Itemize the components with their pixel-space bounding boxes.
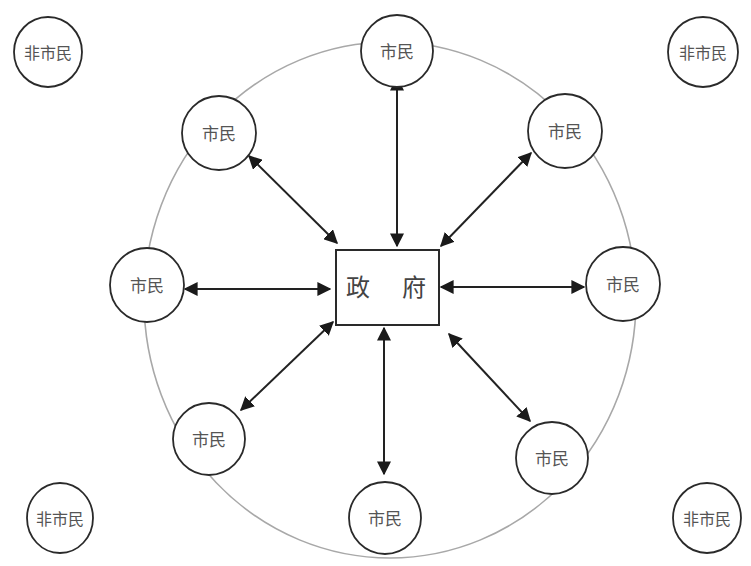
citizen-node-bottom: 市民 xyxy=(349,482,421,554)
government-citizen-diagram: 政 府 市民 市民 市民 市民 市民 市民 市民 市民 非市民 非市民 xyxy=(0,0,751,566)
non-citizen-label: 非市民 xyxy=(36,510,84,529)
government-label: 政 府 xyxy=(346,274,438,302)
citizen-node-top: 市民 xyxy=(361,15,433,87)
non-citizen-node-bottom-right: 非市民 xyxy=(673,483,741,553)
citizen-node-bottom-left: 市民 xyxy=(173,403,245,475)
non-citizen-label: 非市民 xyxy=(683,510,731,529)
citizen-label: 市民 xyxy=(202,124,236,144)
citizen-label: 市民 xyxy=(380,42,414,62)
citizen-node-top-left: 市民 xyxy=(182,96,256,170)
non-citizen-node-top-left: 非市民 xyxy=(14,17,82,87)
citizen-label: 市民 xyxy=(535,449,569,469)
citizen-label: 市民 xyxy=(606,275,640,295)
non-citizen-node-bottom-left: 非市民 xyxy=(27,483,93,553)
citizen-label: 市民 xyxy=(368,509,402,529)
citizen-node-left: 市民 xyxy=(110,248,184,322)
citizen-node-bottom-right: 市民 xyxy=(516,422,588,494)
non-citizen-label: 非市民 xyxy=(679,44,727,63)
arrow-bottom-left xyxy=(241,322,333,410)
arrow-bottom-right xyxy=(449,334,530,421)
citizen-node-right: 市民 xyxy=(586,247,660,321)
citizen-label: 市民 xyxy=(192,430,226,450)
arrow-top-right xyxy=(441,153,531,246)
non-citizen-node-top-right: 非市民 xyxy=(668,17,738,87)
citizen-label: 市民 xyxy=(130,276,164,296)
citizen-label: 市民 xyxy=(548,122,582,142)
non-citizen-label: 非市民 xyxy=(24,44,72,63)
citizen-node-top-right: 市民 xyxy=(528,94,602,168)
arrow-top-left xyxy=(249,156,337,243)
government-node: 政 府 xyxy=(336,250,439,325)
